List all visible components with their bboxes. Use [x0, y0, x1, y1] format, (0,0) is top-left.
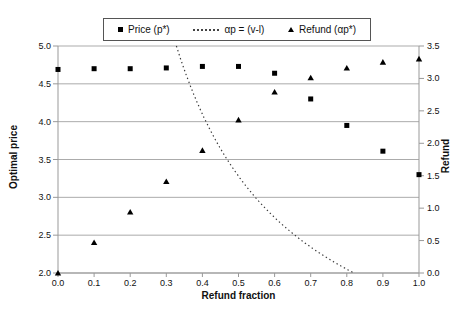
chart-legend: Price (p*) αp = (v-l) Refund (αp*) — [103, 18, 371, 41]
legend-label-price: Price (p*) — [128, 24, 170, 35]
left-axis-tick-label: 2.5 — [38, 230, 51, 240]
right-axis-tick-label: 3.0 — [427, 73, 440, 83]
price-marker — [344, 123, 349, 128]
refund-marker — [380, 59, 386, 65]
left-axis-tick-label: 5.0 — [38, 41, 51, 51]
x-axis-tick-label: 0.0 — [52, 278, 65, 288]
dotted-line-icon — [193, 29, 219, 31]
price-marker — [92, 66, 97, 71]
refund-marker — [271, 89, 277, 95]
left-axis-tick-label: 3.0 — [38, 192, 51, 202]
refund-marker — [235, 117, 241, 123]
x-axis-tick-label: 0.7 — [304, 278, 317, 288]
triangle-marker-icon — [288, 27, 294, 32]
refund-marker — [416, 56, 422, 62]
right-axis-tick-label: 0.5 — [427, 236, 440, 246]
refund-marker — [127, 209, 133, 215]
price-marker — [128, 66, 133, 71]
x-axis-tick-label: 0.4 — [196, 278, 209, 288]
x-axis-tick-label: 0.6 — [268, 278, 281, 288]
legend-entry-refund: Refund (αp*) — [288, 24, 356, 35]
price-marker — [308, 96, 313, 101]
refund-marker — [199, 147, 205, 153]
chart-figure: Price (p*) αp = (v-l) Refund (αp*) Optim… — [0, 0, 474, 315]
right-axis-tick-label: 1.0 — [427, 203, 440, 213]
right-axis-tick-label: 2.0 — [427, 138, 440, 148]
square-marker-icon — [118, 27, 123, 32]
x-axis-tick-label: 1.0 — [413, 278, 426, 288]
legend-entry-constraint: αp = (v-l) — [193, 24, 264, 35]
left-axis-tick-label: 3.5 — [38, 155, 51, 165]
right-axis-tick-label: 2.5 — [427, 106, 440, 116]
x-axis-tick-label: 0.3 — [160, 278, 173, 288]
price-marker — [417, 172, 422, 177]
right-axis-tick-label: 0.0 — [427, 268, 440, 278]
refund-marker — [344, 65, 350, 71]
price-marker — [236, 64, 241, 69]
left-axis-tick-label: 2.0 — [38, 268, 51, 278]
plot-area: 2.02.53.03.54.04.55.00.00.51.01.52.02.53… — [0, 0, 474, 315]
x-axis-tick-label: 0.5 — [232, 278, 245, 288]
x-axis-tick-label: 0.2 — [124, 278, 137, 288]
refund-marker — [91, 239, 97, 245]
left-axis-tick-label: 4.0 — [38, 117, 51, 127]
legend-entry-price: Price (p*) — [118, 24, 170, 35]
legend-label-constraint: αp = (v-l) — [224, 24, 264, 35]
left-axis-tick-label: 4.5 — [38, 79, 51, 89]
refund-marker — [308, 75, 314, 81]
price-marker — [164, 65, 169, 70]
x-axis-tick-label: 0.9 — [377, 278, 390, 288]
price-marker — [56, 67, 61, 72]
refund-marker — [163, 178, 169, 184]
right-axis-tick-label: 3.5 — [427, 41, 440, 51]
legend-label-refund: Refund (αp*) — [299, 24, 356, 35]
price-marker — [272, 71, 277, 76]
x-axis-tick-label: 0.1 — [88, 278, 101, 288]
x-axis-tick-label: 0.8 — [341, 278, 354, 288]
price-marker — [380, 149, 385, 154]
price-marker — [200, 64, 205, 69]
right-axis-tick-label: 1.5 — [427, 171, 440, 181]
